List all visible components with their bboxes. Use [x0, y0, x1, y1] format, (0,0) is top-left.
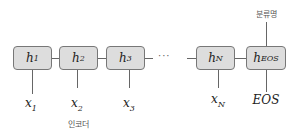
connector — [98, 58, 106, 59]
hidden-state-hN: hN — [196, 46, 235, 70]
input-x3: x3 — [114, 96, 144, 113]
hidden-state-h2: h2 — [59, 46, 98, 70]
input-connector — [218, 70, 219, 88]
encoder-label: 인코더 — [63, 118, 93, 129]
input-x1: x1 — [16, 96, 46, 113]
input-connector — [266, 70, 267, 92]
connector — [52, 58, 59, 59]
input-connector — [77, 70, 78, 88]
input-connector — [32, 70, 33, 94]
hidden-state-h1: h1 — [13, 46, 52, 70]
input-xN: xN — [203, 92, 233, 109]
input-eos: EOS — [251, 93, 281, 107]
connector — [187, 58, 196, 59]
input-x2: x2 — [62, 96, 92, 113]
ellipsis: ··· — [158, 50, 171, 61]
hidden-state-h3: h3 — [106, 46, 145, 70]
connector — [235, 58, 246, 59]
input-connector — [129, 70, 130, 88]
hidden-state-hEOS: hEOS — [246, 46, 286, 70]
connector — [145, 58, 153, 59]
output-connector — [266, 22, 267, 46]
output-label: 분류명 — [251, 8, 281, 19]
